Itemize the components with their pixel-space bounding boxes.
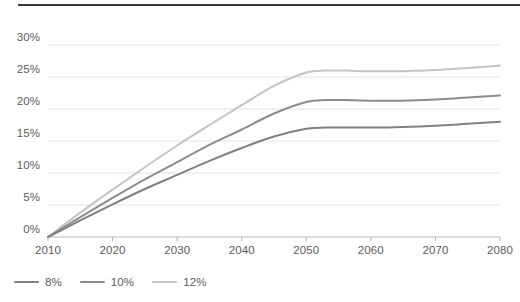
x-axis-tick-label: 2030 [157,244,197,256]
chart-container: 0%5%10%15%20%25%30% 20102020203020402050… [0,0,520,302]
y-axis-tick-label: 30% [6,31,40,43]
line-chart-plot [0,0,520,302]
x-axis-tick-label: 2020 [93,244,133,256]
y-axis-tick-label: 15% [6,127,40,139]
legend-swatch-icon [80,281,105,283]
y-axis-tick-label: 0% [6,223,40,235]
series-line-8pct [48,122,500,237]
chart-legend: 8%10%12% [14,276,206,288]
legend-item[interactable]: 12% [152,276,206,288]
x-axis-tick-label: 2010 [28,244,68,256]
y-axis-tick-label: 20% [6,95,40,107]
legend-label: 10% [111,276,134,288]
y-axis-tick-label: 10% [6,159,40,171]
legend-swatch-icon [152,281,177,283]
x-axis-tick-label: 2060 [351,244,391,256]
x-axis-tick-label: 2080 [480,244,520,256]
y-axis-tick-label: 5% [6,191,40,203]
legend-label: 12% [183,276,206,288]
x-axis-tick-label: 2050 [286,244,326,256]
legend-label: 8% [45,276,62,288]
x-axis-tick-label: 2070 [415,244,455,256]
series-lines-group [48,65,500,237]
series-line-10pct [48,96,500,237]
x-axis-ticks-group [48,237,500,241]
y-axis-tick-label: 25% [6,63,40,75]
series-line-12pct [48,65,500,237]
x-axis-tick-label: 2040 [222,244,262,256]
legend-swatch-icon [14,281,39,283]
legend-item[interactable]: 8% [14,276,62,288]
legend-item[interactable]: 10% [80,276,134,288]
